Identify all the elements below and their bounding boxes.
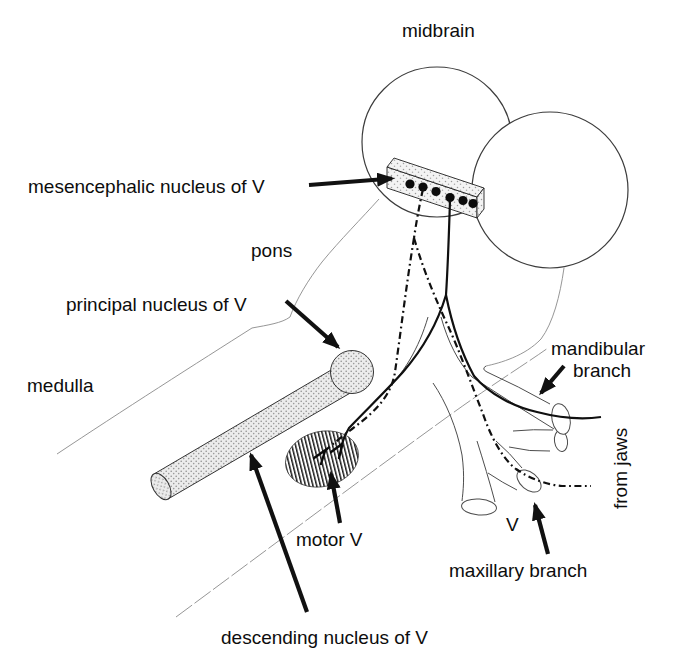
dashed-fiber-to-motor-v [327, 238, 414, 449]
label-medulla: medulla [27, 375, 94, 396]
ophthalmic-tube-end [461, 498, 497, 516]
label-descending-nucleus: descending nucleus of V [221, 627, 428, 648]
label-mandibular-branch-line2: branch [573, 360, 631, 381]
maxillary-tube-lower-edge [488, 473, 517, 490]
label-mesencephalic-nucleus: mesencephalic nucleus of V [28, 176, 265, 197]
arrow-principal [286, 301, 338, 347]
neuron-bead [405, 179, 414, 188]
principal-nucleus-ball [331, 351, 374, 394]
stub-tube-upper-edge [513, 430, 553, 431]
midbrain-circle-right [472, 112, 628, 268]
label-midbrain: midbrain [402, 20, 475, 41]
nerve-trunk-left-edge [380, 317, 428, 397]
label-nerve-v: V [506, 514, 519, 535]
neuron-bead [431, 187, 440, 196]
pons-medulla-upper-contour [57, 199, 379, 454]
label-from-jaws: from jaws [610, 428, 631, 509]
neuron-bead [445, 193, 454, 202]
trigeminal-pathway-diagram: midbrain mesencephalic nucleus of V pons… [0, 0, 677, 661]
trigeminal-nerve-tubes [380, 317, 573, 516]
arrow-maxillary [535, 505, 548, 554]
arrow-mandibular [541, 366, 564, 393]
diagram-canvas: midbrain mesencephalic nucleus of V pons… [0, 0, 677, 661]
neuron-bead [468, 199, 477, 208]
label-maxillary-branch: maxillary branch [449, 560, 587, 581]
nerve-trunk-inner-edge [433, 383, 464, 501]
maxillary-tube-upper-edge [496, 441, 522, 468]
label-mandibular-branch-line1: mandibular [551, 338, 646, 359]
stub-tube-lower-edge [509, 447, 550, 451]
label-principal-nucleus: principal nucleus of V [66, 294, 247, 315]
mandibular-tube-end [549, 402, 573, 436]
label-motor-v: motor V [296, 529, 363, 550]
ophthalmic-tube-right-edge [477, 441, 495, 502]
neuron-bead [458, 196, 467, 205]
label-pons: pons [251, 240, 292, 261]
